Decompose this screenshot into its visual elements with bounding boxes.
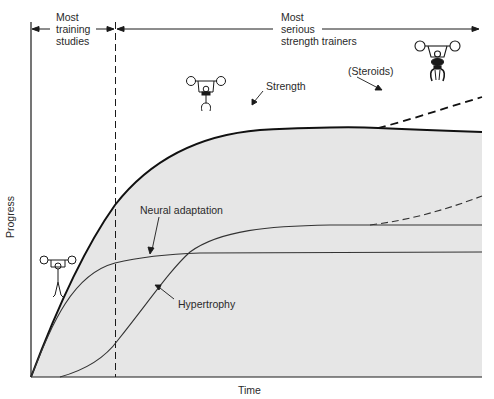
weightlifter-figure-muscular <box>415 41 460 81</box>
steroids-pointer <box>357 77 382 90</box>
neural-adaptation-label: Neural adaptation <box>140 204 223 216</box>
strength-label: Strength <box>266 80 306 92</box>
phase-label-serious-trainers: Most serious strength trainers <box>281 11 357 47</box>
steroids-label: (Steroids) <box>348 65 394 77</box>
phase-label-training-studies: Most training studies <box>56 11 90 47</box>
strength-pointer <box>252 91 263 105</box>
weightlifter-figure-medium <box>187 77 226 112</box>
x-axis-label: Time <box>238 384 261 396</box>
hypertrophy-label: Hypertrophy <box>178 298 235 310</box>
progress-over-time-diagram <box>0 0 494 399</box>
y-axis-label: Progress <box>4 196 16 238</box>
steroids-curve <box>378 97 482 128</box>
